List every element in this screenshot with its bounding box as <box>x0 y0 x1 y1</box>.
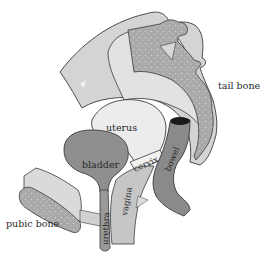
label-bladder: bladder <box>82 159 120 170</box>
vagina-shape <box>111 166 155 244</box>
label-tail-bone: tail bone <box>218 80 260 91</box>
label-uterus: uterus <box>106 122 137 133</box>
label-urethra: urethra <box>100 212 111 245</box>
pelvic-anatomy-diagram: tail bone uterus bladder cervix bowel va… <box>0 0 263 255</box>
label-pubic-bone: pubic bone <box>6 218 60 229</box>
bowel-opening <box>170 117 190 125</box>
